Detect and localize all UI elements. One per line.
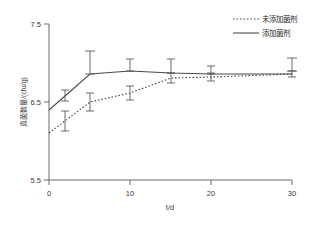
y-tick-label-5-5: 5.5	[31, 176, 41, 185]
fungal-count-line-chart: 7.5 6.5 5.5 0 10 20 30 t/d 真菌数量/(cfu/g)	[0, 0, 321, 227]
x-tick-label-20: 20	[207, 189, 215, 198]
y-axis-title: 真菌数量/(cfu/g)	[19, 77, 28, 127]
chart-figure: 7.5 6.5 5.5 0 10 20 30 t/d 真菌数量/(cfu/g)	[0, 0, 321, 227]
x-tick-label-0: 0	[47, 189, 51, 198]
x-tick-label-10: 10	[126, 189, 134, 198]
y-tick-label-7-5: 7.5	[31, 20, 41, 29]
x-tick-label-30: 30	[288, 189, 296, 198]
y-tick-label-6-5: 6.5	[31, 98, 41, 107]
legend-label-with-inoculant: 添加菌剂	[262, 28, 290, 38]
legend-label-no-inoculant: 未添加菌剂	[262, 14, 297, 24]
x-axis-title: t/d	[166, 203, 174, 212]
